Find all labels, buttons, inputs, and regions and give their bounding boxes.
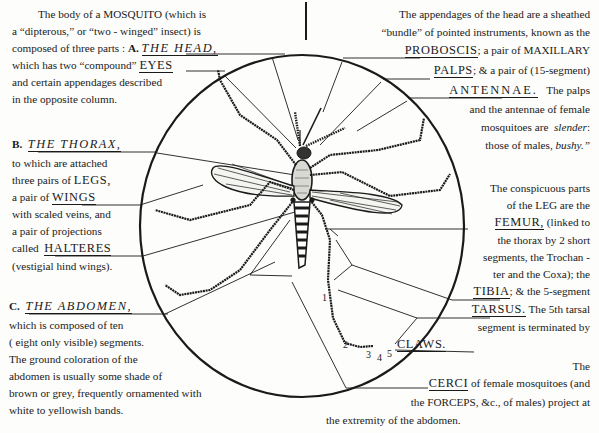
tarsal-number-4: 4 — [377, 350, 382, 366]
antennae-label: ANTENNAE. — [449, 83, 538, 98]
abdomen-heading: C. THE ABDOMEN, — [9, 298, 132, 314]
head-line-6: in the opposite column. — [12, 91, 117, 107]
appendages-line-4: PALPS; & a pair of (15-segment) — [434, 62, 590, 78]
appendages-line-2: “bundle” of pointed instruments, known a… — [382, 24, 590, 40]
palps-label: PALPS — [434, 63, 473, 78]
head-line-5: and certain appendages described — [12, 74, 162, 90]
claws-label: CLAWS. — [397, 337, 446, 352]
appendages-line-6: and the antennae of female — [469, 101, 590, 117]
thorax-title: THE THORAX, — [28, 137, 122, 152]
abdomen-line-4: abdomen is usually some shade of — [9, 368, 162, 384]
leg-line-1: The conspicuous parts — [490, 180, 590, 196]
legs-label: LEGS, — [74, 173, 111, 187]
appendages-line-8: those of males, bushy.” — [485, 137, 590, 153]
leg-line-5: segments, the Trochan - — [483, 249, 590, 265]
appendages-line-3: PROBOSCIS; a pair of MAXILLARY — [405, 42, 590, 58]
abdomen-line-2: ( eight only visible) segments. — [9, 334, 144, 350]
leg-line-6: ter and the Coxa); the — [493, 266, 590, 282]
section-marker-a: A. — [128, 42, 139, 54]
proboscis-label: PROBOSCIS — [405, 43, 478, 58]
intro-line-3: composed of three parts : A. THE HEAD, — [12, 40, 218, 56]
section-marker-c: C. — [9, 300, 20, 312]
eyes-label: EYES — [139, 58, 172, 73]
cerci-line-1: The — [573, 358, 590, 374]
appendages-line-1: The appendages of the head are a sheathe… — [399, 6, 590, 22]
thorax-line-4: with scaled veins, and — [12, 206, 111, 222]
cerci-line-2: CERCI of female mosquitoes (and — [429, 375, 590, 391]
appendages-line-7: mosquitoes are slender: — [481, 119, 590, 135]
halteres-label: HALTERES — [44, 241, 111, 256]
abdomen-line-3: The ground coloration of the — [9, 351, 138, 367]
abdomen-line-5: brown or grey, frequently ornamented wit… — [9, 385, 202, 401]
wings-label: WINGS — [52, 190, 96, 205]
tarsal-number-3: 3 — [366, 347, 371, 363]
head-line-4: which has two “compound” EYES — [12, 57, 173, 73]
intro-line-1: The body of a MOSQUITO (which is — [38, 6, 206, 22]
leg-line-3: FEMUR, (linked to — [495, 214, 590, 230]
abdomen-line-6: white to yellowish bands. — [9, 402, 123, 418]
femur-label: FEMUR, — [495, 215, 544, 230]
leg-line-2: of the LEG are the — [507, 197, 590, 213]
cerci-label: CERCI — [429, 376, 469, 391]
thorax-line-3: a pair of WINGS — [12, 189, 96, 205]
head-title: THE HEAD, — [142, 41, 218, 56]
thorax-line-7: (vestigial hind wings). — [12, 258, 112, 274]
tarsal-number-1: 1 — [322, 290, 327, 306]
thorax-line-6: called HALTERES — [12, 240, 111, 256]
leg-line-7: TIBIA; & the 5-segment — [473, 283, 590, 299]
cerci-line-3: the FORCEPS, &c., of males) project at — [411, 394, 590, 410]
section-marker-b: B. — [12, 138, 22, 150]
leg-line-8: TARSUS. The 5th tarsal — [472, 301, 590, 317]
intro-line-2: a “dipterous,” or “two - winged” insect)… — [12, 23, 201, 39]
bushy-term: bushy.” — [555, 139, 590, 151]
abdomen-line-1: which is composed of ten — [9, 317, 123, 333]
mosquito — [155, 70, 450, 347]
cerci-line-4: the extremity of the abdomen. — [326, 412, 461, 428]
leg-line-9: segment is terminated by — [478, 319, 590, 335]
thorax-heading: B. THE THORAX, — [12, 136, 121, 152]
appendages-line-5: ANTENNAE. The palps — [449, 82, 590, 98]
thorax-line-5: a pair of projections — [12, 223, 102, 239]
tarsus-label: TARSUS. — [472, 302, 526, 317]
thorax-line-1: to which are attached — [12, 155, 107, 171]
abdomen-title: THE ABDOMEN, — [25, 299, 132, 314]
thorax-line-2: three pairs of LEGS, — [12, 172, 111, 188]
tibia-label: TIBIA — [473, 284, 509, 299]
tarsal-number-5: 5 — [387, 346, 392, 362]
slender-term: slender — [554, 121, 587, 133]
leg-line-4: the thorax by 2 short — [497, 232, 590, 248]
tarsal-number-2: 2 — [343, 337, 348, 353]
leg-line-10: CLAWS. — [397, 336, 446, 352]
